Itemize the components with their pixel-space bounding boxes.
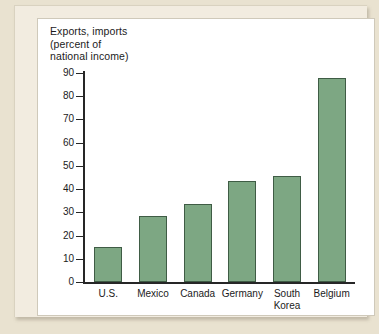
y-axis-tick-label: 20 bbox=[40, 230, 74, 241]
y-axis-tick bbox=[76, 143, 83, 144]
figure-frame: Exports, imports (percent of national in… bbox=[0, 0, 379, 334]
x-axis-category-label: Mexico bbox=[131, 288, 176, 300]
y-axis-tick bbox=[76, 119, 83, 120]
bar bbox=[184, 204, 212, 282]
bar bbox=[318, 78, 346, 282]
x-axis-category-label: Belgium bbox=[309, 288, 354, 300]
y-axis-tick bbox=[76, 282, 83, 283]
bar bbox=[94, 247, 122, 282]
figure-mat: Exports, imports (percent of national in… bbox=[14, 5, 367, 317]
y-axis-tick bbox=[76, 212, 83, 213]
bar bbox=[228, 181, 256, 282]
y-axis-tick-label: 0 bbox=[40, 276, 74, 287]
y-axis-tick-label: 40 bbox=[40, 183, 74, 194]
y-axis-tick bbox=[76, 189, 83, 190]
y-axis-tick-label: 60 bbox=[40, 137, 74, 148]
y-axis-tick bbox=[76, 73, 83, 74]
y-axis-tick-label: 30 bbox=[40, 206, 74, 217]
x-axis-category-label: South Korea bbox=[265, 288, 310, 311]
y-axis-tick bbox=[76, 236, 83, 237]
plot-area: 0102030405060708090 U.S.MexicoCanadaGerm… bbox=[38, 19, 374, 315]
bar bbox=[273, 176, 301, 282]
y-axis-tick-label: 90 bbox=[40, 67, 74, 78]
y-axis-tick bbox=[76, 166, 83, 167]
y-axis-tick-label: 70 bbox=[40, 113, 74, 124]
y-axis-tick bbox=[76, 96, 83, 97]
x-axis-category-label: Canada bbox=[175, 288, 220, 300]
x-axis-line bbox=[83, 282, 355, 284]
bar bbox=[139, 216, 167, 282]
y-axis-line bbox=[83, 71, 85, 284]
y-axis-tick-label: 10 bbox=[40, 253, 74, 264]
y-axis-tick-label: 50 bbox=[40, 160, 74, 171]
x-axis-category-label: Germany bbox=[220, 288, 265, 300]
chart-card: Exports, imports (percent of national in… bbox=[37, 18, 375, 316]
y-axis-tick bbox=[76, 259, 83, 260]
x-axis-category-label: U.S. bbox=[86, 288, 131, 300]
y-axis-tick-label: 80 bbox=[40, 90, 74, 101]
